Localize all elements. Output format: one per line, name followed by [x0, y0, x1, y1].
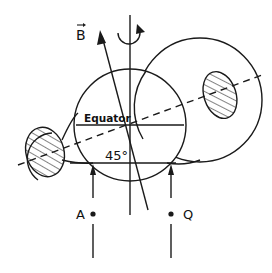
point-a-dot [90, 211, 95, 216]
magnetosphere-diagram: B Equator 45° A Q [0, 0, 272, 273]
rotation-arrowhead-icon [136, 24, 145, 34]
point-q-label: Q [183, 207, 193, 222]
angle-label: 45° [105, 148, 128, 163]
point-a-label: A [76, 207, 85, 222]
rotation-arrow-icon [118, 33, 140, 44]
b-vector-label: B [76, 27, 86, 43]
point-q-dot [168, 211, 173, 216]
b-vector-arrowhead-icon [97, 30, 106, 45]
equator-label: Equator [84, 112, 131, 124]
hatched-region-right [197, 67, 242, 123]
